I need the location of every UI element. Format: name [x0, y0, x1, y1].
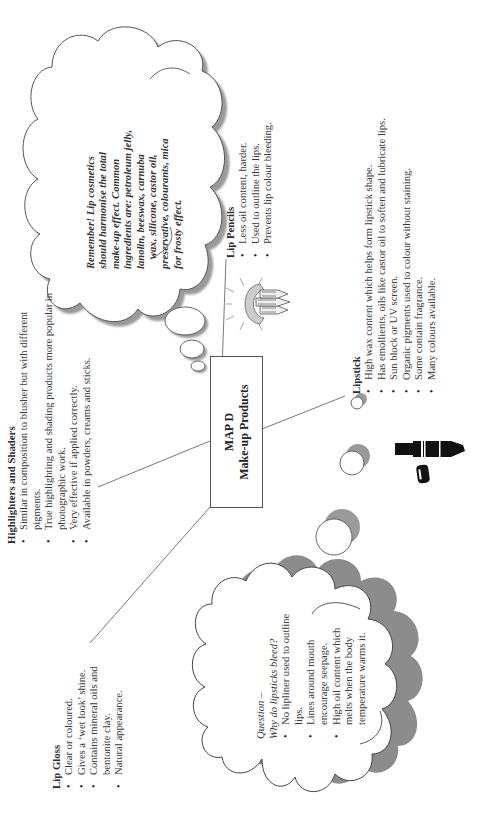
bullet-list: Similar in composition to blusher but wi…	[18, 284, 94, 544]
lipstick-icon	[395, 441, 465, 484]
remember-thought-bubbles	[165, 307, 208, 373]
bullet-list: High wax content which helps form lipsti…	[363, 49, 439, 394]
question-label: Question –	[255, 609, 268, 739]
branch-lip-pencils: Lip Pencils Less oil content, harder. Us…	[224, 98, 275, 258]
list-item: Used to outline the lips.	[250, 98, 263, 258]
bullet-list: Less oil content, harder. Used to outlin…	[237, 98, 275, 258]
list-item: No lipliner used to outline lips.	[280, 609, 305, 739]
note-line: should harmonise the total	[97, 49, 109, 269]
note-line: make-up effect. Common	[110, 49, 122, 269]
list-item: High oil content which melts when the bo…	[331, 609, 369, 739]
note-line: for frosty effect.	[172, 49, 184, 269]
list-item: Some contain fragrance.	[413, 49, 426, 394]
list-item: Natural appearance.	[113, 629, 126, 789]
question-note: Question – Why do lipsticks bleed? No li…	[255, 609, 368, 739]
list-item: Available in powders, creams and sticks.	[81, 284, 94, 544]
note-line: lanolin, beeswax, carnuba	[135, 49, 147, 269]
list-item: Less oil content, harder.	[237, 98, 250, 258]
branch-heading: Lipstick	[350, 49, 363, 394]
central-topic-box: MAP D Make-up Products	[210, 356, 263, 508]
list-item: Sun block or UV screen.	[388, 49, 401, 394]
list-item: Organic pigments used to colour without …	[401, 49, 414, 394]
branch-heading: Lip Gloss	[50, 629, 63, 789]
list-item: Contains mineral oils and bentonite clay…	[88, 629, 113, 789]
list-item: Many colours available.	[426, 49, 439, 394]
list-item: High wax content which helps form lipsti…	[363, 49, 376, 394]
branch-heading: Highlighters and Shaders	[5, 284, 18, 544]
central-topic-subtitle: Make-up Products	[237, 384, 252, 479]
list-item: Has emollients, oils like castor oil to …	[376, 49, 389, 394]
branch-highlighters-shaders: Highlighters and Shaders Similar in comp…	[5, 284, 94, 544]
note-line: ingredients are: petroleum jelly,	[122, 49, 134, 269]
question-text: Why do lipsticks bleed?	[268, 609, 281, 739]
connector-lipstick	[262, 396, 345, 429]
list-item: True highlighting and shading products m…	[43, 284, 68, 544]
connector-highlighters	[98, 441, 210, 487]
list-item: Very effective if applied correctly.	[68, 284, 81, 544]
note-line: preservative, colourants, mica	[159, 49, 171, 269]
connector-lip-pencils	[222, 259, 226, 369]
branch-heading: Lip Pencils	[224, 98, 237, 258]
list-item: Similar in composition to blusher but wi…	[18, 284, 43, 544]
list-item: Clear or coloured.	[63, 629, 76, 789]
note-line: Remember! Lip cosmetics	[85, 49, 97, 269]
bullet-list: Clear or coloured. Gives a ‘wet look’ sh…	[63, 629, 126, 789]
connector-lip-gloss	[90, 507, 210, 643]
branch-lip-gloss: Lip Gloss Clear or coloured. Gives a ‘we…	[50, 629, 126, 789]
branch-lipstick: Lipstick High wax content which helps fo…	[350, 49, 439, 394]
list-item: Prevents lip colour bleeding.	[262, 98, 275, 258]
lip-pencils-icon	[224, 278, 290, 330]
central-topic-title: MAP D	[222, 413, 237, 451]
list-item: Lines around mouth encourage seepage.	[305, 609, 330, 739]
mind-map-page: MAP D Make-up Products Highlighters and …	[0, 0, 483, 839]
remember-note-text: Remember! Lip cosmetics should harmonise…	[85, 49, 184, 269]
list-item: Gives a ‘wet look’ shine.	[76, 629, 89, 789]
note-line: wax, silicone, castor oil,	[147, 49, 159, 269]
question-thought-bubbles	[316, 393, 370, 555]
bullet-list: No lipliner used to outline lips. Lines …	[280, 609, 368, 739]
